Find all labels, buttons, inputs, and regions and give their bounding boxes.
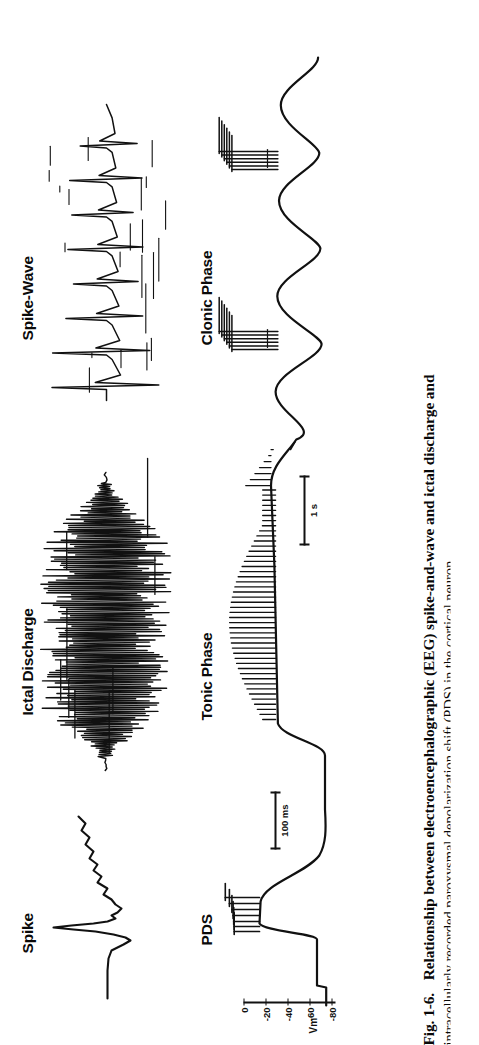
scalebar-100ms: 100 ms [274,791,289,849]
figure-caption: Fig. 1-6. Relationship between electroen… [418,0,450,1045]
scalebar-cap-left [299,543,309,545]
vm-tick-20: -20 [260,998,271,1027]
panel-label-spike-wave: Spike-Wave [18,256,36,340]
vm-axis: 0 -20 -40 -60 -80 Vm [243,907,363,1027]
vm-tick-label-0: 0 [238,1007,249,1027]
scalebar-1s: 1 s [303,475,318,545]
panel-label-tonic-phase: Tonic Phase [197,632,215,720]
eeg-trace-ictal-discharge [34,470,176,770]
vm-axis-title: Vm [307,1017,318,1033]
vm-tick-mark [243,998,245,1005]
figure-number: Fig. 1-6. [419,992,436,1045]
scalebar-1s-bar [303,475,305,545]
vm-tick-mark [309,998,311,1005]
figure-page: Spike Ictal Discharge Spike-Wave PDS Ton… [0,0,479,1045]
vm-tick-0: 0 [238,998,249,1027]
scalebar-cap-right [270,791,280,793]
figure-stage: Spike Ictal Discharge Spike-Wave PDS Ton… [0,0,479,1045]
eeg-trace-spike-wave [36,100,176,400]
vm-tick-label-80: -80 [326,1007,337,1027]
vm-tick-mark [265,998,267,1005]
vm-tick-mark [287,998,289,1005]
panel-label-spike: Spike [18,913,36,953]
scalebar-cap-right [299,475,309,477]
scalebar-cap-left [270,847,280,849]
panel-label-ictal-discharge: Ictal Discharge [18,608,36,715]
figure-caption-line-1: Relationship between electroencephalogra… [419,374,436,980]
vm-tick-mark [331,998,333,1005]
vm-tick-label-40: -40 [282,1007,293,1027]
scalebar-100ms-bar [274,791,276,849]
vm-tick-label-20: -20 [260,1007,271,1027]
panel-label-clonic-phase: Clonic Phase [197,250,215,345]
vm-tick-40: -40 [282,998,293,1027]
figure-caption-line-2: intracellularly recorded paroxysmal depo… [439,0,450,1045]
scalebar-1s-label: 1 s [307,475,318,545]
eeg-trace-spike [45,810,165,1000]
vm-tick-80: -80 [326,998,337,1027]
panel-label-pds: PDS [197,914,215,945]
scalebar-100ms-label: 100 ms [278,791,289,849]
